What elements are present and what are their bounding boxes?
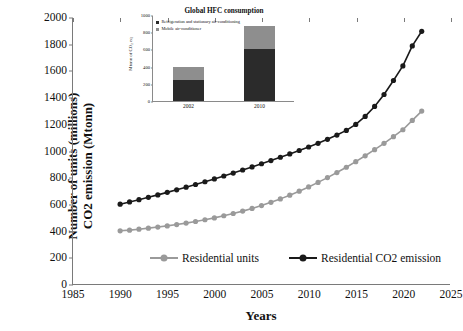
data-point-marker <box>165 190 170 195</box>
data-point-marker <box>287 151 292 156</box>
data-point-marker <box>334 132 339 137</box>
data-point-marker <box>353 159 358 164</box>
data-point-marker <box>353 122 358 127</box>
data-point-marker <box>165 223 170 228</box>
x-axis-tick-label: 1990 <box>109 284 132 301</box>
data-point-marker <box>118 202 123 207</box>
data-point-marker <box>381 141 386 146</box>
data-point-marker <box>155 224 160 229</box>
data-point-marker <box>297 148 302 153</box>
data-point-marker <box>381 92 386 97</box>
data-point-marker <box>174 222 179 227</box>
data-point-marker <box>325 137 330 142</box>
data-point-marker <box>174 187 179 192</box>
x-axis-tick-label: 2015 <box>345 284 368 301</box>
series-residential-units <box>118 109 425 234</box>
inset-y-axis-tick-mark <box>151 84 154 85</box>
data-point-marker <box>146 195 151 200</box>
data-point-marker <box>268 158 273 163</box>
inset-bar-segment-refrigeration <box>244 49 276 101</box>
inset-plot-area: 0200400600800100020022010 <box>152 16 294 102</box>
x-axis-tick-label: 2000 <box>203 284 226 301</box>
data-point-marker <box>363 153 368 158</box>
x-axis-tick-label: 2025 <box>440 284 463 301</box>
x-axis-tick-label: 1995 <box>156 284 179 301</box>
legend-swatch <box>150 253 178 263</box>
data-point-marker <box>193 182 198 187</box>
data-point-marker <box>127 199 132 204</box>
legend-swatch <box>289 253 317 263</box>
inset-bar-segment-refrigeration <box>173 80 205 102</box>
data-point-marker <box>240 209 245 214</box>
data-point-marker <box>410 118 415 123</box>
inset-y-axis-tick-mark <box>151 16 154 17</box>
data-point-marker <box>315 141 320 146</box>
legend-label: Residential CO2 emission <box>321 252 441 264</box>
data-point-marker <box>231 170 236 175</box>
data-point-marker <box>202 179 207 184</box>
data-point-marker <box>306 184 311 189</box>
legend-label: Residential units <box>182 252 259 264</box>
data-point-marker <box>249 206 254 211</box>
data-point-marker <box>372 147 377 152</box>
main-legend: Residential unitsResidential CO2 emissio… <box>150 252 441 264</box>
x-axis-title: Years <box>72 308 450 324</box>
data-point-marker <box>315 180 320 185</box>
x-axis-tick-mark <box>451 18 452 22</box>
data-point-marker <box>212 176 217 181</box>
data-point-marker <box>297 189 302 194</box>
data-point-marker <box>391 78 396 83</box>
inset-y-axis-tick-mark <box>151 67 154 68</box>
data-point-marker <box>184 220 189 225</box>
x-axis-tick-label: 2010 <box>298 284 321 301</box>
data-point-marker <box>221 213 226 218</box>
data-point-marker <box>259 161 264 166</box>
inset-bar-segment-mobile-ac <box>173 67 205 80</box>
data-point-marker <box>306 144 311 149</box>
x-axis-tick-label: 2005 <box>251 284 274 301</box>
data-point-marker <box>278 196 283 201</box>
x-axis-tick-label: 2020 <box>392 284 415 301</box>
data-point-marker <box>259 203 264 208</box>
data-point-marker <box>400 63 405 68</box>
data-point-marker <box>372 104 377 109</box>
data-point-marker <box>334 170 339 175</box>
data-point-marker <box>202 217 207 222</box>
inset-y-axis-tick-mark <box>151 33 154 34</box>
data-point-marker <box>127 228 132 233</box>
data-point-marker <box>136 197 141 202</box>
data-point-marker <box>221 173 226 178</box>
data-point-marker <box>184 185 189 190</box>
inset-y-axis-title: Mtonn of CO₂ eq <box>128 37 133 70</box>
data-point-marker <box>344 128 349 133</box>
data-point-marker <box>212 215 217 220</box>
series-line <box>120 111 422 231</box>
inset-x-axis-tick-label: 2002 <box>183 101 194 109</box>
data-point-marker <box>193 219 198 224</box>
inset-bar-segment-mobile-ac <box>244 26 276 49</box>
inset-bar <box>244 26 276 101</box>
inset-chart: Global HFC consumption Refrigeration and… <box>112 8 298 120</box>
data-point-marker <box>400 127 405 132</box>
data-point-marker <box>249 164 254 169</box>
data-point-marker <box>391 134 396 139</box>
legend-item: Residential CO2 emission <box>289 252 441 264</box>
legend-item: Residential units <box>150 252 259 264</box>
chart-figure: Number of units (millions) CO2 emission … <box>0 0 463 331</box>
data-point-marker <box>146 226 151 231</box>
data-point-marker <box>136 227 141 232</box>
data-point-marker <box>419 29 424 34</box>
data-point-marker <box>268 200 273 205</box>
data-point-marker <box>419 109 424 114</box>
data-point-marker <box>363 114 368 119</box>
data-point-marker <box>325 175 330 180</box>
data-point-marker <box>240 167 245 172</box>
inset-x-axis-tick-label: 2010 <box>254 101 265 109</box>
data-point-marker <box>278 155 283 160</box>
data-point-marker <box>344 165 349 170</box>
inset-y-axis-tick-mark <box>151 102 154 103</box>
data-point-marker <box>287 193 292 198</box>
data-point-marker <box>155 192 160 197</box>
inset-y-axis-tick-mark <box>151 50 154 51</box>
inset-bar <box>173 67 205 101</box>
